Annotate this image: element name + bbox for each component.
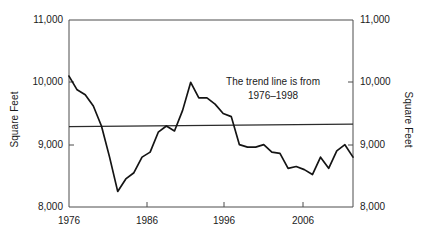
chart-figure: Square Feet Square Feet 11,000 10,000 9,… <box>0 0 422 248</box>
y-axis-ticks <box>69 82 353 145</box>
data-series-line <box>69 76 353 191</box>
axis-frame <box>69 20 353 207</box>
plot-area <box>0 0 422 248</box>
x-axis-ticks <box>147 202 303 207</box>
trend-line-series <box>69 124 353 126</box>
